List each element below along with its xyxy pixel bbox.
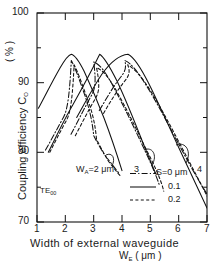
- legend-label-s0: S=0 μm: [156, 168, 187, 177]
- y-axis-ticks: [37, 13, 207, 222]
- legend-sample-lines: [130, 174, 156, 201]
- figure-container: Coupling efficiency CO ( % ) 100 90 80 7…: [0, 0, 218, 264]
- ytick-label-100: 100: [12, 7, 29, 17]
- curve-solid-wa4: [77, 54, 207, 208]
- ytick-label-80: 80: [18, 146, 29, 156]
- curve-label-wa4: 4: [197, 165, 202, 174]
- xtick-label-3: 3: [90, 224, 96, 234]
- leader-wa4: [176, 144, 188, 163]
- x-axis-ticks: [37, 13, 207, 222]
- xtick-label-2: 2: [62, 224, 68, 234]
- curve-label-wa-value: =2 μm: [89, 164, 114, 174]
- curve-label-wa3: 3: [134, 165, 139, 174]
- xtick-label-4: 4: [119, 224, 125, 234]
- mode-annotation: TE00: [40, 187, 56, 197]
- curve-label-wa-symbol: W: [76, 164, 85, 174]
- mode-annotation-text: TE: [40, 186, 50, 195]
- axis-frame: [37, 13, 207, 222]
- xtick-label-5: 5: [147, 224, 153, 234]
- xtick-label-7: 7: [204, 224, 210, 234]
- xtick-label-6: 6: [175, 224, 181, 234]
- y-axis-title-subscript: O: [23, 92, 29, 97]
- x-axis-title-line2: WE ( μm ): [119, 251, 162, 262]
- curve-label-wa2: WA=2 μm: [76, 165, 114, 175]
- xtick-label-1: 1: [34, 224, 40, 234]
- y-axis-unit-text: ( % ): [4, 41, 15, 62]
- x-axis-unit: ( μm ): [135, 250, 161, 261]
- x-axis-symbol-subscript: E: [128, 256, 132, 262]
- chart-canvas: [0, 0, 218, 264]
- legend-label-s02: 0.2: [168, 195, 181, 204]
- x-axis-title-line1: Width of external waveguide: [30, 238, 179, 249]
- legend-label-s01: 0.1: [168, 182, 181, 191]
- ytick-label-90: 90: [18, 77, 29, 87]
- mode-annotation-subscript: 00: [50, 190, 56, 196]
- y-axis-unit: ( % ): [4, 41, 15, 62]
- ytick-label-70: 70: [18, 216, 29, 226]
